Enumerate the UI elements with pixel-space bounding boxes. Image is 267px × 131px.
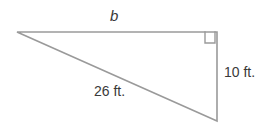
triangle-outline <box>17 32 217 121</box>
side-label-vertical-leg: 10 ft. <box>224 65 255 79</box>
side-label-b: b <box>110 8 118 23</box>
right-angle-square-icon <box>205 32 215 43</box>
side-label-hypotenuse: 26 ft. <box>94 84 125 98</box>
right-triangle-figure: b 10 ft. 26 ft. <box>0 0 267 131</box>
